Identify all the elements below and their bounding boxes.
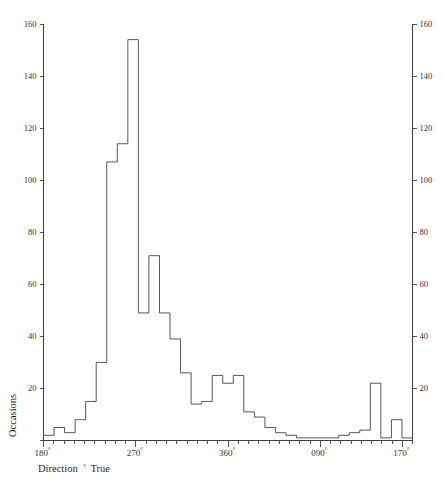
y-tick-label-left: 60 xyxy=(28,279,37,289)
chart-figure: 20406080100120140160 2040608010012014016… xyxy=(0,0,444,487)
y-tick-label-right: 160 xyxy=(420,19,433,29)
x-tick-label: 090° xyxy=(311,446,328,458)
y-tick-label-left: 160 xyxy=(24,19,37,29)
x-axis-title-suffix: True xyxy=(91,463,111,474)
y-tick-label-right: 120 xyxy=(420,123,433,133)
y-tick-label-right: 60 xyxy=(420,279,429,289)
y-ticks-right xyxy=(413,24,417,388)
x-tick-label: 180° xyxy=(35,446,52,458)
svg-text:Direction ° Tr: Direction ° True xyxy=(38,460,110,475)
y-tick-label-right: 140 xyxy=(420,71,433,81)
y-tick-label-left: 80 xyxy=(28,227,37,237)
x-axis-title: Direction ° True xyxy=(38,460,110,475)
y-tick-label-left: 40 xyxy=(28,331,37,341)
histogram-plot: 20406080100120140160 2040608010012014016… xyxy=(0,0,444,487)
y-tick-label-left: 120 xyxy=(24,123,37,133)
x-ticks xyxy=(44,441,413,447)
y-tick-label-left: 100 xyxy=(24,175,37,185)
y-ticks-left xyxy=(40,24,44,441)
y-tick-labels-left: 20406080100120140160 xyxy=(24,19,37,393)
degree-symbol: ° xyxy=(83,463,86,471)
y-tick-label-left: 140 xyxy=(24,71,37,81)
y-axis-title: Occasions xyxy=(7,394,18,437)
y-tick-label-right: 80 xyxy=(420,227,429,237)
x-tick-label: 360° xyxy=(219,446,236,458)
y-tick-label-right: 40 xyxy=(420,331,429,341)
x-tick-label: 270° xyxy=(127,446,144,458)
x-tick-labels: 180°270°360°090°170° xyxy=(35,446,410,458)
histogram-outline xyxy=(44,40,413,441)
y-tick-label-right: 20 xyxy=(420,383,429,393)
y-tick-labels-right: 20406080100120140160 xyxy=(420,19,433,393)
x-axis-title-text: Direction xyxy=(38,463,78,474)
y-tick-label-left: 20 xyxy=(28,383,37,393)
x-tick-label: 170° xyxy=(393,446,410,458)
y-tick-label-right: 100 xyxy=(420,175,433,185)
